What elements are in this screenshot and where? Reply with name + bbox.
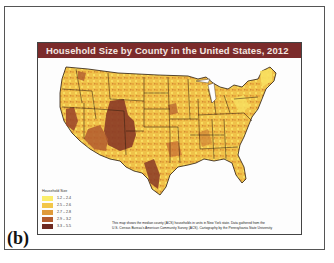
legend-label: 2.7 – 2.8 [57, 210, 71, 214]
figure-frame: Household Size by County in the United S… [4, 6, 325, 250]
legend-label: 3.3 – 5.5 [57, 224, 71, 228]
legend-label: 1.2 – 2.4 [57, 196, 71, 200]
legend-swatch [42, 210, 53, 215]
legend-item: 2.7 – 2.8 [42, 209, 92, 215]
map-legend: Household Size 1.2 – 2.4 2.5 – 2.6 2.7 –… [42, 189, 92, 230]
map-panel: Household Size by County in the United S… [37, 42, 302, 235]
map-title: Household Size by County in the United S… [38, 43, 301, 58]
legend-swatch [42, 224, 53, 229]
legend-label: 2.9 – 3.2 [57, 217, 71, 221]
legend-item: 3.3 – 5.5 [42, 223, 92, 229]
legend-title: Household Size [42, 189, 92, 193]
figure-label: (b) [7, 228, 29, 249]
map-source-note: This map shows the median county (ACS) h… [112, 221, 300, 230]
legend-item: 2.5 – 2.6 [42, 202, 92, 208]
legend-label: 2.5 – 2.6 [57, 203, 71, 207]
legend-item: 2.9 – 3.2 [42, 216, 92, 222]
legend-item: 1.2 – 2.4 [42, 195, 92, 201]
legend-swatch [42, 196, 53, 201]
legend-swatch [42, 217, 53, 222]
note-line: U.S. Census Bureau's American Community … [112, 226, 300, 231]
us-county-choropleth-map [48, 59, 298, 209]
legend-swatch [42, 203, 53, 208]
